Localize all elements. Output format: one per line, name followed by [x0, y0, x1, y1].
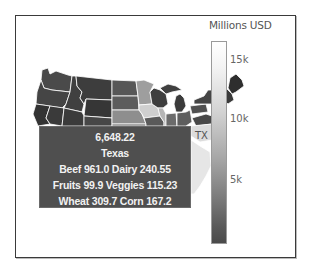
- state-pa[interactable]: [190, 104, 208, 114]
- state-mi[interactable]: [174, 94, 186, 112]
- state-oh[interactable]: [177, 110, 192, 126]
- state-tx[interactable]: [191, 140, 211, 194]
- tooltip-state-name: Texas: [40, 145, 190, 161]
- tooltip-beef-dairy: Beef 961.0 Dairy 240.55: [40, 161, 190, 177]
- hover-state-code: TX: [195, 130, 208, 141]
- state-ny[interactable]: [194, 90, 212, 104]
- colorbar-tick-5k: 5k: [230, 174, 242, 185]
- state-in[interactable]: [166, 113, 177, 126]
- state-sd[interactable]: [112, 96, 139, 110]
- tooltip-total: 6,648.22: [40, 129, 190, 145]
- tooltip-wheat-corn: Wheat 309.7 Corn 167.2: [40, 193, 190, 209]
- colorbar-tick-10k: 10k: [230, 113, 249, 124]
- colorbar-title: Millions USD: [209, 19, 272, 31]
- state-wy[interactable]: [84, 99, 112, 118]
- colorbar: [211, 41, 227, 244]
- state-me[interactable]: [228, 74, 244, 94]
- state-nd[interactable]: [112, 80, 138, 96]
- state-co[interactable]: [84, 116, 112, 126]
- tooltip-fruits-veggies: Fruits 99.9 Veggies 115.23: [40, 177, 190, 193]
- colorbar-tick-15k: 15k: [230, 54, 249, 65]
- hover-tooltip: 6,648.22 Texas Beef 961.0 Dairy 240.55 F…: [39, 126, 191, 208]
